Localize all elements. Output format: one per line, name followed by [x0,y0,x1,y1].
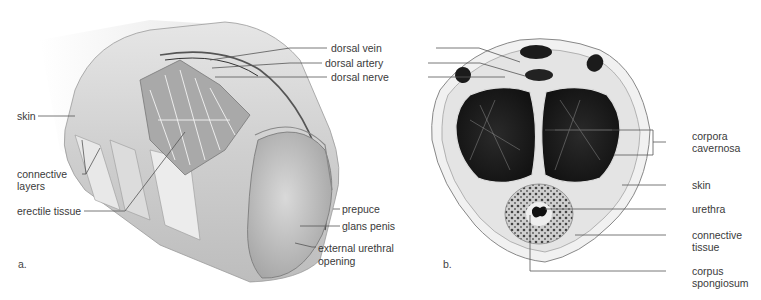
label-prepuce: prepuce [342,203,380,215]
anatomy-diagram: skin connective layers erectile tissue d… [0,0,761,300]
label-urethra: urethra [692,203,725,215]
label-glans-penis: glans penis [342,220,395,232]
panel-a-illustration [40,20,339,282]
panel-b-illustration [432,39,666,262]
label-dorsal-nerve: dorsal nerve [331,71,389,83]
dorsal-artery-section [525,69,553,81]
label-erectile-tissue: erectile tissue [17,205,81,217]
label-connective-tissue-line1: connective [692,229,742,241]
label-corpus-spongiosum-line1: corpus [692,265,724,277]
label-connective-layers-line2: layers [17,180,45,192]
label-external-urethral-opening-line2: opening [318,255,355,267]
corpora-cavernosa-right [542,88,620,183]
label-corpora-cavernosa-line2: cavernosa [692,142,740,154]
label-skin-b: skin [692,179,711,191]
label-dorsal-vein: dorsal vein [331,42,382,54]
label-connective-layers-line1: connective [17,168,67,180]
label-external-urethral-opening-line1: external urethral [318,242,394,254]
label-corpus-spongiosum-line2: spongiosum [692,277,749,289]
panel-a-letter: a. [18,258,27,270]
panel-b-letter: b. [443,258,452,270]
label-dorsal-artery: dorsal artery [325,57,383,69]
label-corpora-cavernosa-line1: corpora [692,130,728,142]
dorsal-vein-section [520,45,552,59]
label-connective-tissue-line2: tissue [692,241,719,253]
label-skin-a: skin [17,110,36,122]
